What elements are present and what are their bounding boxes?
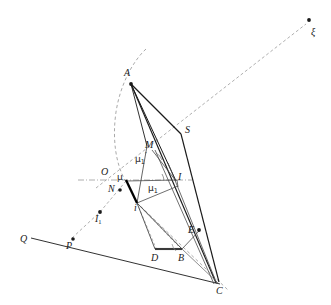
segment-mu1-to-C	[155, 150, 214, 284]
label-C: C	[216, 286, 223, 296]
label-mu-1-prime-mark: ′	[145, 152, 147, 161]
segment-B-to-C	[182, 249, 218, 283]
label-N: N	[108, 184, 115, 194]
segment-i-to-B	[137, 203, 182, 249]
point-dot-A	[129, 82, 133, 86]
label-A: A	[124, 68, 130, 78]
point-dot-xi	[307, 18, 311, 22]
label-mu-1-base: μ	[148, 183, 154, 193]
ray-Q-to-C	[31, 238, 220, 284]
label-E: E	[188, 225, 194, 235]
label-I-1: I1	[95, 214, 102, 224]
segment-S-C	[181, 134, 219, 282]
label-Q: Q	[20, 234, 27, 244]
label-mu-1: μ1	[148, 184, 158, 193]
label-i: i	[134, 203, 137, 213]
label-D: D	[151, 253, 158, 263]
point-dot-N	[118, 188, 122, 192]
label-mu: μ	[117, 173, 123, 182]
label-B: B	[178, 253, 184, 263]
geometry-figure: ξ A S M μ1′ O μ I N μ1 i I1 Q P D B E C	[0, 0, 331, 305]
segment-A-C	[131, 84, 216, 283]
label-mu-1-subscript: 1	[154, 187, 158, 195]
segment-A-S	[131, 84, 181, 134]
label-P: P	[66, 241, 72, 251]
label-mu-1-prime: μ1′	[135, 155, 147, 164]
point-dot-E	[197, 228, 201, 232]
label-I-1-subscript: 1	[98, 218, 101, 225]
geometry-canvas	[0, 0, 331, 305]
label-mu-1-prime-base: μ	[135, 154, 141, 164]
ray-to-xi-dashed	[96, 24, 306, 188]
segment-i-to-D	[137, 203, 155, 249]
angle-arc-at-I	[162, 174, 164, 180]
label-xi: ξ	[311, 27, 315, 37]
label-M: M	[145, 140, 153, 150]
thick-segment-mu-i	[126, 180, 137, 203]
label-I: I	[178, 172, 181, 182]
label-O: O	[101, 167, 108, 177]
label-S: S	[185, 125, 190, 135]
